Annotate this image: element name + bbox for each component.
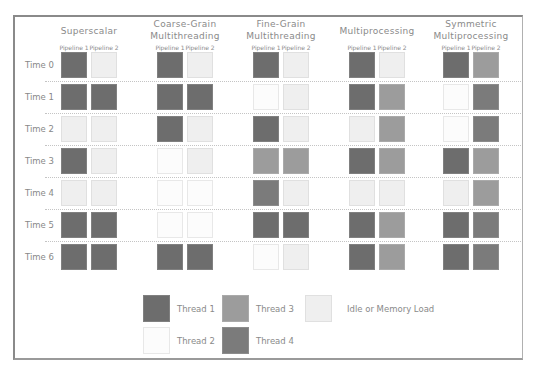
- row-label-time-4: Time 4: [25, 188, 54, 198]
- pipeline-label: Pipeline 1: [251, 44, 281, 51]
- row-separator: [45, 177, 521, 178]
- legend-swatch-t1: [143, 295, 170, 322]
- pipeline-label: Pipeline 2: [471, 44, 501, 51]
- legend-swatch-t4: [222, 327, 249, 354]
- cell-t1: [349, 244, 375, 270]
- cell-t1: [349, 212, 375, 238]
- cell-idle: [187, 116, 213, 142]
- cell-t1: [61, 52, 87, 78]
- pipeline-label: Pipeline 1: [347, 44, 377, 51]
- cell-idle: [91, 148, 117, 174]
- pipeline-label: Pipeline 2: [185, 44, 215, 51]
- row-separator: [45, 145, 521, 146]
- row-label-time-1: Time 1: [25, 92, 54, 102]
- cell-t4: [473, 116, 499, 142]
- column-title: Fine-Grain: [231, 18, 331, 30]
- cell-idle: [443, 180, 469, 206]
- cell-idle: [283, 52, 309, 78]
- cell-t3: [379, 244, 405, 270]
- pipeline-label: Pipeline 2: [89, 44, 119, 51]
- pipeline-label: Pipeline 2: [377, 44, 407, 51]
- legend-label: Thread 2: [177, 336, 215, 346]
- cell-t1: [283, 212, 309, 238]
- cell-t1: [253, 212, 279, 238]
- cell-t2: [187, 180, 213, 206]
- cell-t4: [473, 84, 499, 110]
- cell-idle: [187, 148, 213, 174]
- cell-t1: [157, 244, 183, 270]
- row-separator: [45, 209, 521, 210]
- cell-t3: [473, 148, 499, 174]
- cell-t1: [91, 212, 117, 238]
- cell-idle: [283, 116, 309, 142]
- cell-t1: [61, 244, 87, 270]
- cell-t1: [61, 212, 87, 238]
- legend-label: Thread 4: [256, 336, 294, 346]
- cell-t3: [379, 116, 405, 142]
- column-title: Multithreading: [135, 30, 235, 42]
- pipeline-label: Pipeline 1: [155, 44, 185, 51]
- cell-t1: [349, 84, 375, 110]
- cell-t4: [473, 212, 499, 238]
- row-label-time-0: Time 0: [25, 60, 54, 70]
- row-label-time-5: Time 5: [25, 220, 54, 230]
- cell-t1: [61, 84, 87, 110]
- cell-t2: [253, 244, 279, 270]
- column-title: Multiprocessing: [327, 25, 427, 37]
- column-title: Multithreading: [231, 30, 331, 42]
- cell-t2: [157, 212, 183, 238]
- cell-idle: [91, 52, 117, 78]
- legend-label: Thread 1: [177, 304, 215, 314]
- cell-idle: [379, 52, 405, 78]
- pipeline-label: Pipeline 1: [59, 44, 89, 51]
- cell-t3: [473, 52, 499, 78]
- cell-t1: [91, 84, 117, 110]
- cell-t2: [187, 212, 213, 238]
- cell-t2: [157, 180, 183, 206]
- cell-t1: [157, 116, 183, 142]
- row-label-time-6: Time 6: [25, 252, 54, 262]
- cell-idle: [283, 244, 309, 270]
- cell-idle: [349, 116, 375, 142]
- column-title: Multiprocessing: [421, 30, 521, 42]
- row-label-time-2: Time 2: [25, 124, 54, 134]
- cell-t1: [443, 52, 469, 78]
- cell-t2: [157, 148, 183, 174]
- column-title: Superscalar: [39, 25, 139, 37]
- cell-idle: [283, 84, 309, 110]
- cell-t1: [253, 52, 279, 78]
- legend-label: Thread 3: [256, 304, 294, 314]
- cell-idle: [61, 116, 87, 142]
- cell-idle: [283, 180, 309, 206]
- cell-idle: [91, 116, 117, 142]
- cell-t1: [61, 148, 87, 174]
- cell-t2: [443, 116, 469, 142]
- cell-t1: [187, 244, 213, 270]
- cell-t3: [473, 180, 499, 206]
- pipeline-label: Pipeline 1: [441, 44, 471, 51]
- legend-swatch-idle: [305, 295, 332, 322]
- row-separator: [45, 241, 521, 242]
- cell-t1: [91, 244, 117, 270]
- legend-label: Idle or Memory Load: [347, 304, 434, 314]
- cell-t3: [283, 148, 309, 174]
- legend-swatch-t3: [222, 295, 249, 322]
- cell-t1: [157, 52, 183, 78]
- cell-t2: [443, 84, 469, 110]
- cell-t3: [253, 148, 279, 174]
- cell-idle: [91, 180, 117, 206]
- cell-t2: [253, 84, 279, 110]
- cell-t1: [443, 148, 469, 174]
- cell-t1: [187, 84, 213, 110]
- cell-t4: [253, 180, 279, 206]
- cell-idle: [187, 52, 213, 78]
- column-title: Symmetric: [421, 18, 521, 30]
- cell-idle: [379, 180, 405, 206]
- cell-t1: [443, 212, 469, 238]
- pipeline-label: Pipeline 2: [281, 44, 311, 51]
- cell-t1: [443, 244, 469, 270]
- row-separator: [45, 81, 521, 82]
- cell-t1: [349, 52, 375, 78]
- cell-t1: [253, 116, 279, 142]
- cell-idle: [349, 180, 375, 206]
